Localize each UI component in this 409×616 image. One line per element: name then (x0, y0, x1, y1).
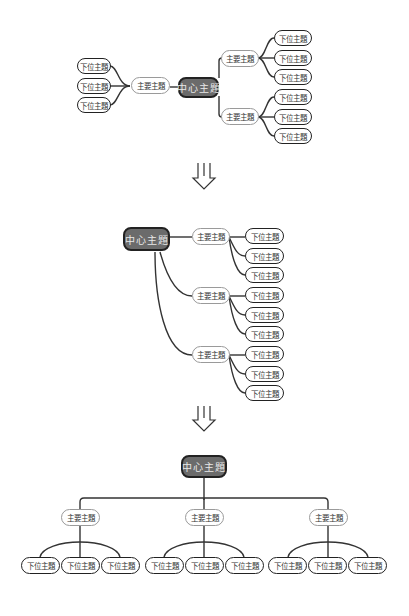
subtopic[interactable]: 下位主題 (145, 557, 184, 574)
main-topic[interactable]: 主要主題 (221, 50, 259, 67)
transition-arrow-1 (193, 163, 215, 189)
central-topic[interactable]: 中心主題 (178, 77, 219, 98)
subtopic[interactable]: 下位主題 (245, 385, 284, 401)
subtopic[interactable]: 下位主題 (274, 30, 312, 46)
subtopic[interactable]: 下位主題 (274, 128, 312, 144)
subtopic[interactable]: 下位主題 (61, 557, 100, 574)
main-topic[interactable]: 主要主題 (192, 346, 230, 363)
subtopic[interactable]: 下位主題 (274, 109, 312, 125)
main-topic[interactable]: 主要主題 (192, 228, 230, 245)
subtopic[interactable]: 下位主題 (21, 557, 60, 574)
subtopic[interactable]: 下位主題 (77, 78, 111, 94)
subtopic[interactable]: 下位主題 (245, 346, 284, 362)
subtopic[interactable]: 下位主題 (245, 267, 284, 283)
main-topic[interactable]: 主要主題 (192, 287, 230, 304)
subtopic[interactable]: 下位主題 (245, 366, 284, 382)
subtopic[interactable]: 下位主題 (77, 58, 111, 74)
subtopic[interactable]: 下位主題 (245, 228, 284, 244)
subtopic[interactable]: 下位主題 (274, 50, 312, 66)
subtopic[interactable]: 下位主題 (101, 557, 140, 574)
subtopic[interactable]: 下位主題 (308, 557, 347, 574)
subtopic[interactable]: 下位主題 (274, 69, 312, 85)
main-topic[interactable]: 主要主題 (221, 108, 259, 125)
subtopic[interactable]: 下位主題 (245, 326, 284, 342)
main-topic[interactable]: 主要主題 (309, 509, 348, 526)
subtopic[interactable]: 下位主題 (185, 557, 224, 574)
subtopic[interactable]: 下位主題 (268, 557, 307, 574)
transition-arrow-2 (193, 406, 215, 431)
subtopic[interactable]: 下位主題 (245, 287, 284, 303)
central-topic[interactable]: 中心主題 (123, 227, 170, 251)
main-topic[interactable]: 主要主題 (131, 77, 170, 94)
main-topic[interactable]: 主要主題 (185, 509, 224, 526)
subtopic[interactable]: 下位主題 (225, 557, 264, 574)
subtopic[interactable]: 下位主題 (274, 89, 312, 105)
subtopic[interactable]: 下位主題 (348, 557, 387, 574)
subtopic[interactable]: 下位主題 (245, 248, 284, 264)
subtopic[interactable]: 下位主題 (245, 307, 284, 323)
main-topic[interactable]: 主要主題 (61, 509, 100, 526)
subtopic[interactable]: 下位主題 (77, 97, 111, 113)
central-topic[interactable]: 中心主題 (181, 455, 227, 478)
